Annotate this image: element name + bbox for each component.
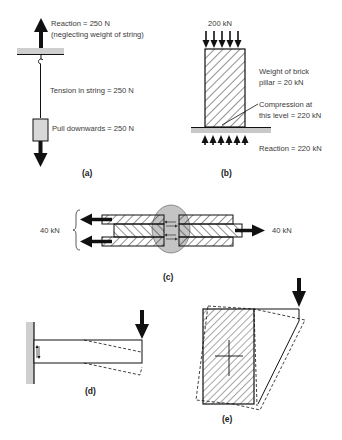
pull-arrow-down-icon [34,141,48,167]
panel-c-shear: 40 kN 40 kN (c) [40,205,292,282]
weight-label: Weight of brick [259,67,309,76]
load-label: 200 kN [208,19,232,28]
ceiling-support [17,48,64,54]
torsion-arm [254,309,299,404]
tension-label: Tension in string = 250 N [50,86,134,95]
compression-label: Compression at [259,100,313,109]
reaction-label-b: Reaction = 220 kN [259,144,322,153]
panel-e-torsion: (e) [196,278,306,424]
weight-value: pillar = 20 kN [259,78,304,87]
load-arrow-down-icon [135,310,149,339]
compression-value: this level = 220 kN [259,111,321,120]
pull-label: Pull downwards = 250 N [52,124,134,133]
hook-icon [38,55,43,64]
wall [26,322,34,384]
right-force-label: 40 kN [272,226,292,235]
structural-forces-diagram: Reaction = 250 N (neglecting weight of s… [0,0,342,440]
left-force-arrows-icon [80,214,112,248]
panel-d-bending: (d) [26,310,149,396]
brace [73,210,80,250]
panel-a-tension: Reaction = 250 N (neglecting weight of s… [17,18,144,178]
caption-a: (a) [82,168,93,178]
panel-b-compression: 200 kN Weight of brick pillar = 20 kN Co… [191,19,322,178]
load-arrows-down-icon [203,31,242,48]
caption-d: (d) [85,386,96,396]
reaction-note: (neglecting weight of string) [51,30,144,39]
caption-b: (b) [221,168,232,178]
reaction-label: Reaction = 250 N [51,19,110,28]
torsion-load-arrow-icon [292,278,306,307]
reaction-arrows-up-icon [202,135,249,145]
left-force-label: 40 kN [40,226,60,235]
caption-c: (c) [163,272,174,282]
reaction-arrow-up-icon [34,18,48,48]
cantilever-beam [34,340,142,363]
hatched-section [203,309,254,404]
caption-e: (e) [222,414,233,424]
weight-block [33,119,48,141]
